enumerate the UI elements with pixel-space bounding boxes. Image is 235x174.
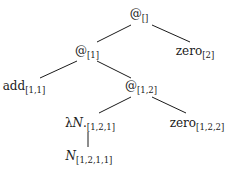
node-application-1-2: @[1,2]	[125, 80, 157, 95]
node-label: zero	[176, 44, 202, 58]
node-address: [1,2]	[137, 85, 157, 95]
node-label: add	[3, 79, 26, 93]
node-label: @	[75, 44, 87, 58]
node-address: [1,1]	[25, 85, 45, 95]
edge-app1-app12	[97, 61, 131, 78]
node-zero-1-2-2: zero[1,2,2]	[170, 117, 225, 132]
node-zero-2: zero[2]	[176, 45, 214, 60]
edge-root-app1	[97, 25, 131, 42]
node-add-1-1: add[1,1]	[3, 80, 46, 95]
edge-app12-zero122	[152, 97, 186, 113]
node-address: []	[142, 13, 149, 23]
node-address: [1,2,1]	[87, 122, 115, 132]
node-address: [1]	[87, 50, 99, 60]
node-label: @	[130, 7, 142, 21]
node-address: [1,2,2]	[196, 122, 224, 132]
edge-root-zero2	[152, 25, 190, 42]
node-application-1: @[1]	[75, 45, 99, 60]
edge-app12-lam121	[99, 97, 131, 113]
node-address: [2]	[202, 50, 214, 60]
node-variable: N	[73, 116, 84, 130]
node-label: zero	[170, 116, 196, 130]
node-address: [1,2,1,1]	[76, 155, 112, 165]
node-label: @	[125, 79, 137, 93]
node-root-application: @[]	[130, 8, 149, 23]
node-variable-1-2-1-1: N[1,2,1,1]	[66, 150, 113, 165]
node-lambda-1-2-1: λN.[1,2,1]	[65, 117, 115, 132]
node-variable: N	[66, 149, 77, 163]
lambda-symbol: λ	[65, 116, 73, 130]
edge-app1-add11	[40, 61, 77, 78]
